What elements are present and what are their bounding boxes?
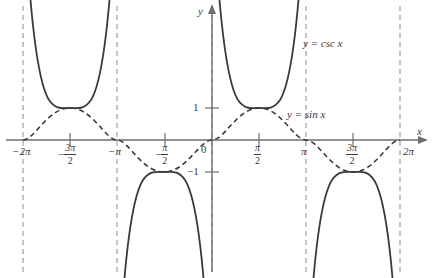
x-tick-label-negpi2: −π2 bbox=[155, 144, 168, 167]
x-tick-label-3pi2: 3π2 bbox=[346, 144, 358, 167]
fraction-denominator: 2 bbox=[346, 156, 358, 167]
fraction-3pi-2: 3π2 bbox=[346, 143, 358, 166]
y-tick-label-one: 1 bbox=[193, 102, 199, 113]
x-tick-label-neg2pi: −2π bbox=[12, 146, 30, 157]
fraction-denominator: 2 bbox=[161, 156, 168, 167]
csc-branch-4 bbox=[314, 172, 393, 278]
fraction-numerator: π bbox=[254, 143, 261, 154]
x-axis-arrow bbox=[418, 136, 428, 144]
origin-label: 0 bbox=[201, 144, 207, 155]
fraction-pi-2: π2 bbox=[254, 143, 261, 166]
y-axis-label: y bbox=[198, 6, 203, 17]
csc-branch-3 bbox=[220, 0, 299, 108]
csc-curve-label: y = csc x bbox=[303, 38, 342, 49]
csc-branch-2 bbox=[125, 172, 204, 278]
x-tick-label-pi2: π2 bbox=[254, 144, 261, 167]
x-axis-label: x bbox=[417, 126, 422, 137]
y-tick-label-neg-one: −1 bbox=[187, 166, 199, 177]
fraction-numerator: 3π bbox=[346, 143, 358, 154]
x-tick-label-pi: π bbox=[301, 146, 307, 157]
fraction-denominator: 2 bbox=[64, 156, 76, 167]
fraction-numerator: 3π bbox=[64, 143, 76, 154]
fraction-pi-2: π2 bbox=[161, 143, 168, 166]
sin-curve-label: y = sin x bbox=[287, 109, 325, 120]
fraction-numerator: π bbox=[161, 143, 168, 154]
function-graph-figure: x y −2π −3π2 −π −π2 0 π2 π 3π2 2π 1 −1 y… bbox=[0, 0, 434, 278]
x-tick-label-negpi: −π bbox=[108, 146, 121, 157]
fraction-denominator: 2 bbox=[254, 156, 261, 167]
y-axis bbox=[208, 4, 216, 272]
x-tick-label-2pi: 2π bbox=[403, 146, 414, 157]
csc-branch-1 bbox=[31, 0, 110, 108]
fraction-3pi-2: 3π2 bbox=[64, 143, 76, 166]
y-axis-arrow bbox=[208, 4, 216, 14]
plot-canvas bbox=[0, 0, 434, 278]
x-tick-label-neg3pi2: −3π2 bbox=[58, 144, 76, 167]
